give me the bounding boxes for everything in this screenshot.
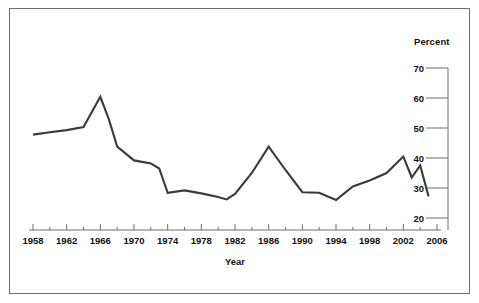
x-tick-label: 1958 bbox=[16, 235, 50, 246]
chart-series-layer bbox=[33, 97, 429, 200]
x-tick-label: 1990 bbox=[285, 235, 319, 246]
x-tick-label: 1982 bbox=[218, 235, 252, 246]
x-tick-label: 1978 bbox=[184, 235, 218, 246]
chart-axes bbox=[29, 68, 448, 230]
y-tick-label: 70 bbox=[406, 63, 424, 74]
x-tick-label: 1994 bbox=[319, 235, 353, 246]
y-tick-label: 20 bbox=[406, 213, 424, 224]
y-tick-label: 60 bbox=[406, 93, 424, 104]
data-line-percent bbox=[33, 97, 429, 200]
y-axis-unit-label: Percent bbox=[414, 36, 450, 47]
x-tick-label: 1974 bbox=[151, 235, 185, 246]
x-tick-label: 1962 bbox=[50, 235, 84, 246]
x-tick-label: 2006 bbox=[420, 235, 454, 246]
y-tick-label: 40 bbox=[406, 153, 424, 164]
x-tick-label: 2002 bbox=[386, 235, 420, 246]
x-axis-title: Year bbox=[205, 256, 265, 267]
x-tick-label: 1966 bbox=[83, 235, 117, 246]
x-tick-label: 1986 bbox=[252, 235, 286, 246]
x-tick-label: 1998 bbox=[353, 235, 387, 246]
figure-canvas: Percent Year 203040506070 19581962196619… bbox=[0, 0, 479, 303]
y-tick-label: 50 bbox=[406, 123, 424, 134]
x-tick-label: 1970 bbox=[117, 235, 151, 246]
y-tick-label: 30 bbox=[406, 183, 424, 194]
